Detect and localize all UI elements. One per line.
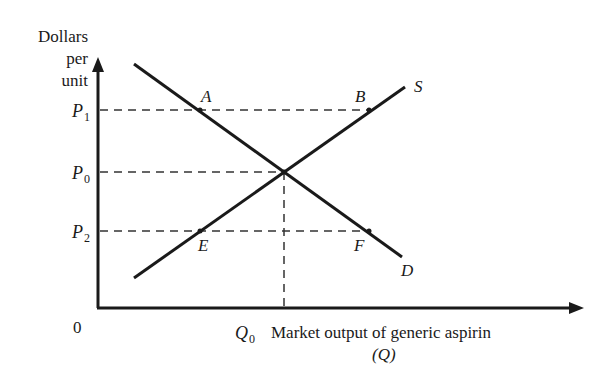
supply-demand-diagram: Dollars per unit P 1 P 0 P 2 A B E F S D… [0, 0, 613, 386]
x-axis-label: Market output of generic aspirin [271, 323, 491, 342]
point-f [367, 229, 372, 234]
point-a-label: A [200, 87, 212, 106]
svg-text:2: 2 [84, 231, 90, 245]
y-axis-label-line-1: Dollars [38, 27, 88, 46]
origin-label: 0 [73, 318, 82, 337]
x-axis-label-sub: (Q) [372, 345, 396, 364]
svg-text:P: P [71, 163, 83, 183]
svg-text:P: P [71, 222, 83, 242]
svg-text:1: 1 [84, 110, 90, 124]
svg-text:P: P [71, 101, 83, 121]
point-b-label: B [355, 87, 366, 106]
point-f-label: F [353, 236, 365, 255]
p1-label: P 1 [71, 101, 90, 124]
point-e-label: E [197, 236, 209, 255]
point-e [198, 229, 203, 234]
y-axis-label-line-3: unit [62, 71, 89, 90]
y-axis-label-line-2: per [66, 49, 88, 68]
y-axis-arrow-icon [92, 57, 104, 72]
supply-label: S [414, 77, 423, 96]
point-a [198, 108, 203, 113]
svg-text:0: 0 [249, 332, 255, 346]
svg-text:0: 0 [84, 172, 90, 186]
point-b [367, 108, 372, 113]
x-axis-arrow-icon [569, 302, 584, 314]
p2-label: P 2 [71, 222, 90, 245]
svg-text:Q: Q [235, 323, 248, 343]
q0-label: Q 0 [235, 323, 255, 346]
point-equilibrium [282, 170, 287, 175]
demand-label: D [400, 261, 414, 280]
p0-label: P 0 [71, 163, 90, 186]
